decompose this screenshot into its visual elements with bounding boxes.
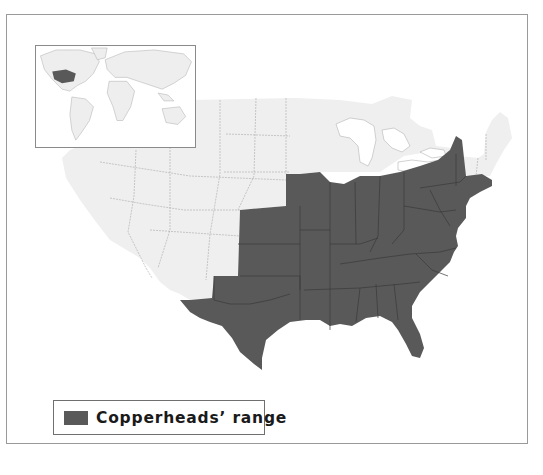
- legend-label: Copperheads’ range: [96, 409, 287, 427]
- world-map-icon: [36, 46, 195, 147]
- map-legend: Copperheads’ range: [53, 400, 265, 435]
- world-locator-inset: [35, 45, 196, 148]
- legend-swatch: [64, 411, 88, 425]
